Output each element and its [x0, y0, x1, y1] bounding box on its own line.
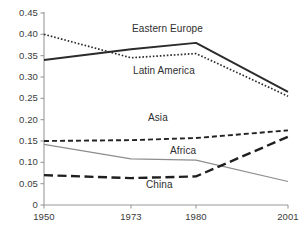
- y-tick-label: 0.45: [19, 7, 38, 18]
- y-tick-label: 0.20: [19, 114, 38, 125]
- series-lines: [44, 34, 288, 181]
- line-chart: 00.050.100.150.200.250.300.350.400.45 19…: [0, 0, 304, 242]
- series-label-africa: Africa: [170, 145, 196, 156]
- series-label-eastern-europe: Eastern Europe: [132, 23, 203, 34]
- y-tick-label: 0.40: [19, 28, 38, 39]
- series-line-africa: [44, 144, 288, 181]
- y-tick-label: 0.25: [19, 92, 38, 103]
- y-tick-label: 0.15: [19, 135, 38, 146]
- series-line-asia: [44, 130, 288, 141]
- y-tick-label: 0.35: [19, 50, 38, 61]
- series-label-asia: Asia: [148, 112, 168, 123]
- y-tick-label: 0.10: [19, 156, 38, 167]
- x-tick-label: 1950: [20, 211, 68, 222]
- series-label-china: China: [146, 179, 173, 190]
- x-tick-label: 2001: [264, 211, 304, 222]
- series-line-china: [44, 137, 288, 178]
- y-tick-label: 0.05: [19, 178, 38, 189]
- y-tick-label: 0: [33, 199, 38, 210]
- x-tick-label: 1980: [172, 211, 220, 222]
- series-label-latin-america: Latin America: [133, 65, 195, 76]
- y-tick-label: 0.30: [19, 71, 38, 82]
- x-tick-label: 1973: [107, 211, 155, 222]
